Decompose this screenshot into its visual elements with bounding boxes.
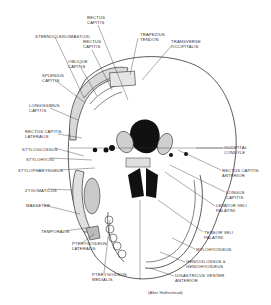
choanae [128, 168, 144, 198]
foramen-magnum [130, 119, 160, 153]
label-trapezius-tendon: TRAPEZIUS TENDON [140, 32, 165, 42]
label-splenius-capitis: SPLENIUS CAPITIS [42, 73, 64, 83]
label-rectus-capitis-lateralis: RECTUS CAPITIS LATERALIS [25, 129, 62, 139]
label-digastricus: DIGASTRICUS VENTER ANTERIOR [175, 273, 224, 283]
label-stylopharyngeus: STYLOPHARYNGEUS [18, 168, 63, 173]
label-stylohyoid: STYLOHYOID [26, 157, 55, 162]
label-geniohyoid: GENIOGLOSSUS & GENIOHYOIDEUS [186, 259, 226, 269]
label-styloglossus: STYLOGLOSSUS [22, 147, 58, 152]
masseter-hatch [84, 178, 100, 214]
label-tensor-veli-palatini: TENSOR VELI PALATINI [204, 230, 233, 240]
label-pterygoideus-medialis: PTERYGOIDEUS MEDIALIS [92, 272, 127, 282]
label-sternocleidomastoid: STERNOCLEIDOMASTOID [35, 34, 90, 39]
label-masseter: MASSETER [26, 203, 50, 208]
upper-teeth [108, 212, 124, 262]
label-zygomaticus: ZYGOMATICUS [25, 188, 57, 193]
label-oblique-capitis: OBLIQUE CAPITIS [68, 59, 88, 69]
label-levator-veli-palatini: LEVATOR VELI PALATINI [216, 203, 247, 213]
anatomy-figure: RECTUS CAPITIS STERNOCLEIDOMASTOID RECTU… [0, 0, 271, 305]
label-temporalis: TEMPORALIS [41, 229, 70, 234]
figure-credit: (After Hollinshead) [148, 290, 183, 295]
label-rectus-capitis-2: RECTUS CAPITIS [83, 39, 101, 49]
label-rectus-capitis-top: RECTUS CAPITIS [87, 15, 105, 25]
label-transverse-occipitalis: TRANSVERSE OCCIPITALIS [171, 39, 201, 49]
label-rectus-capitis-anterior: RECTUS CAPITIS ANTERIOR [222, 168, 259, 178]
label-pterygoideus-lateralis: PTERYGOIDEUS LATERALIS [72, 241, 107, 251]
label-mylohyoideus: MYLOHYOIDEUS [196, 247, 232, 252]
label-longissimus-capitis: LONGISSIMUS CAPITIS [29, 103, 60, 113]
label-longus-capitis: LONGUS CAPITIS [226, 190, 245, 200]
label-occipital-condyle: OCCIPITAL CONDYLE [224, 145, 247, 155]
